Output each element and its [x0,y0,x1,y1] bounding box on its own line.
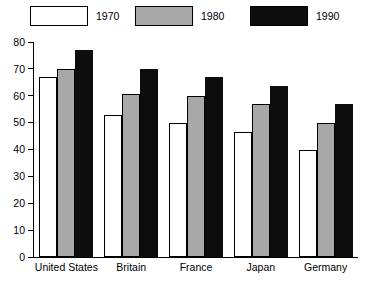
x-axis-label: France [180,262,213,273]
y-axis-tick: 50 [13,117,33,129]
bar-1980 [57,69,75,257]
y-axis-tick: 10 [13,224,33,236]
y-axis-tick-label: 20 [13,198,28,209]
y-axis-tick: 20 [13,197,33,209]
y-axis-tick: 80 [13,36,33,48]
y-axis-tick-label: 50 [13,117,28,128]
bar-group [99,42,164,257]
y-axis-tick: 70 [13,63,33,75]
y-axis-tick-label: 60 [13,91,28,102]
y-axis-tick: 40 [13,144,33,156]
y-axis-tick-label: 10 [13,225,28,236]
y-axis-tick: 60 [13,90,33,102]
bar-1970 [299,150,317,258]
legend-label-1980: 1980 [201,11,224,22]
chart-legend: 1970 1980 1990 [0,0,365,32]
bar-1970 [169,123,187,257]
y-axis: 01020304050607080 [0,36,33,264]
x-axis-label: United States [35,262,98,273]
bar-1990 [140,69,158,257]
x-axis-label: Britain [116,262,146,273]
x-axis-label: Germany [304,262,347,273]
y-axis-tick-label: 70 [13,64,28,75]
legend-entry-1970: 1970 [30,5,119,27]
bar-1970 [234,132,252,257]
legend-swatch-1970 [30,6,88,26]
y-axis-tick: 30 [13,170,33,182]
legend-entry-1990: 1990 [250,5,339,27]
bar-1980 [187,96,205,257]
y-axis-tick-label: 0 [19,252,28,263]
x-axis-label: Japan [246,262,275,273]
y-axis-tick-label: 80 [13,37,28,48]
plot-area [34,42,358,257]
y-axis-tick: 0 [19,251,33,263]
legend-label-1970: 1970 [96,11,119,22]
legend-entry-1980: 1980 [135,5,224,27]
bar-1980 [252,104,270,257]
legend-label-1990: 1990 [316,11,339,22]
x-axis-labels: United StatesBritainFranceJapanGermany [34,262,358,282]
bar-group [34,42,99,257]
legend-swatch-1980 [135,6,193,26]
bar-group [164,42,229,257]
bar-chart: 1970 1980 1990 01020304050607080 United … [0,0,365,285]
bar-1990 [270,86,288,257]
bar-group [293,42,358,257]
y-axis-tick-label: 30 [13,171,28,182]
bar-1970 [104,115,122,257]
bar-1990 [335,104,353,257]
y-axis-tick-label: 40 [13,144,28,155]
bar-1990 [205,77,223,257]
bar-1970 [39,77,57,257]
bar-1990 [75,50,93,257]
bar-group [228,42,293,257]
bar-1980 [317,123,335,257]
legend-swatch-1990 [250,6,308,26]
bar-1980 [122,94,140,257]
